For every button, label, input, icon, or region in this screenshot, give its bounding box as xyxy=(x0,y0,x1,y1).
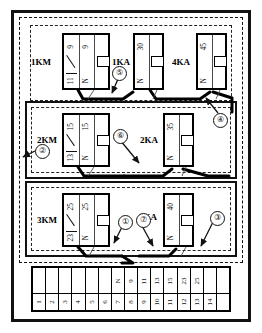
diagram-canvas: 9 9 11 N 1KM 30 N 1KA 45 N 4KA 15 15 13 … xyxy=(0,0,262,333)
terminal-label: N xyxy=(82,149,90,167)
terminal-index-number-text: 7 xyxy=(114,300,121,304)
terminal-wire-number-text: 15 xyxy=(167,277,174,284)
terminal-cell[interactable]: 98 xyxy=(125,268,138,310)
coil-icon xyxy=(97,135,110,146)
terminal-index-number: 5 xyxy=(86,294,98,310)
terminal-wire-number: 9 xyxy=(125,268,137,294)
terminal-label: N xyxy=(82,72,90,90)
contact-terminal-bar-icon xyxy=(66,73,77,74)
terminal-wire-number xyxy=(33,268,45,294)
callout-3: ③ xyxy=(210,211,225,226)
device-label-3KM: 3KM xyxy=(37,216,57,225)
terminal-label: 9 xyxy=(67,38,75,56)
device-divider xyxy=(149,35,150,88)
device-divider xyxy=(94,115,95,165)
device-divider xyxy=(212,35,213,88)
terminal-label: N xyxy=(167,149,175,167)
terminal-index-number-text: 3 xyxy=(62,300,69,304)
terminal-cell[interactable]: 1 xyxy=(33,268,46,310)
terminal-strip[interactable]: 123456N798119131015112312251314 xyxy=(31,266,231,312)
terminal-index-number: 1 xyxy=(33,294,45,310)
device-label-1KM: 1KM xyxy=(31,58,51,67)
terminal-wire-number xyxy=(99,268,111,294)
terminal-cell[interactable]: 1511 xyxy=(164,268,177,310)
terminal-label: N xyxy=(200,72,208,90)
device-divider xyxy=(94,195,95,245)
terminal-wire-number xyxy=(59,268,71,294)
device-1KM[interactable]: 9 9 11 N xyxy=(62,33,110,90)
terminal-index-number: 4 xyxy=(72,294,84,310)
callout-4: ④ xyxy=(213,113,228,128)
terminal-index-number-text: 6 xyxy=(101,300,108,304)
contact-terminal-bar-icon xyxy=(66,231,77,232)
coil-icon xyxy=(214,56,227,67)
terminal-label: N xyxy=(82,229,90,247)
device-2KM[interactable]: 15 15 13 N xyxy=(62,113,110,167)
terminal-label: N xyxy=(137,72,145,90)
device-label-2KA: 2KA xyxy=(140,136,158,145)
terminal-cell[interactable] xyxy=(217,268,229,310)
terminal-wire-number-text: 9 xyxy=(128,279,135,283)
terminal-wire-number-text: 13 xyxy=(154,277,161,284)
coil-icon xyxy=(181,215,194,226)
terminal-cell[interactable]: 119 xyxy=(138,268,151,310)
terminal-wire-number: 23 xyxy=(178,268,190,294)
terminal-cell[interactable]: 6 xyxy=(99,268,112,310)
terminal-wire-number-text: 23 xyxy=(180,277,187,284)
terminal-index-number: 9 xyxy=(138,294,150,310)
terminal-index-number-text: 4 xyxy=(75,300,82,304)
callout-6: ⑥ xyxy=(113,129,128,144)
terminal-index-number-text: 12 xyxy=(180,299,187,306)
terminal-label: 11 xyxy=(67,72,75,90)
terminal-label: 15 xyxy=(67,118,75,136)
terminal-cell[interactable]: 2 xyxy=(46,268,59,310)
terminal-index-number: 12 xyxy=(178,294,190,310)
terminal-index-number: 10 xyxy=(151,294,163,310)
terminal-label: 9 xyxy=(82,38,90,56)
terminal-label: 45 xyxy=(200,38,208,56)
terminal-label: N xyxy=(167,229,175,247)
device-4KA[interactable]: 45 N xyxy=(196,33,227,90)
terminal-wire-number xyxy=(46,268,58,294)
terminal-index-number: 7 xyxy=(112,294,124,310)
terminal-index-number xyxy=(217,294,229,310)
terminal-cell[interactable]: 2513 xyxy=(191,268,204,310)
terminal-index-number: 2 xyxy=(46,294,58,310)
device-3KM[interactable]: 25 25 23 N xyxy=(62,193,110,247)
coil-icon xyxy=(97,56,110,67)
device-divider xyxy=(79,195,80,245)
terminal-cell[interactable]: 2312 xyxy=(178,268,191,310)
callout-7: ⑦ xyxy=(136,213,151,228)
device-3KA[interactable]: 40 N xyxy=(163,193,194,247)
terminal-wire-number-text: 11 xyxy=(141,277,148,284)
contact-blade-icon xyxy=(66,214,75,226)
terminal-cell[interactable]: N7 xyxy=(112,268,125,310)
coil-icon xyxy=(181,135,194,146)
terminal-index-number-text: 2 xyxy=(49,300,56,304)
device-divider xyxy=(94,35,95,88)
device-2KA[interactable]: 35 N xyxy=(163,113,194,167)
device-divider xyxy=(79,35,80,88)
terminal-cell[interactable]: 1310 xyxy=(151,268,164,310)
terminal-wire-number xyxy=(72,268,84,294)
terminal-wire-number xyxy=(204,268,216,294)
device-label-4KA: 4KA xyxy=(172,58,190,67)
terminal-wire-number: 13 xyxy=(151,268,163,294)
terminal-label: 25 xyxy=(82,198,90,216)
terminal-index-number-text: 10 xyxy=(154,299,161,306)
contact-blade-icon xyxy=(66,55,75,68)
terminal-cell[interactable]: 3 xyxy=(59,268,72,310)
device-divider xyxy=(179,195,180,245)
terminal-index-number-text: 11 xyxy=(167,299,174,306)
terminal-wire-number-text: 25 xyxy=(193,277,200,284)
callout-5: ⑤ xyxy=(112,66,127,81)
terminal-cell[interactable]: 4 xyxy=(72,268,85,310)
terminal-cell[interactable]: 14 xyxy=(204,268,217,310)
contact-blade-icon xyxy=(66,134,75,146)
terminal-index-number: 6 xyxy=(99,294,111,310)
device-1KA[interactable]: 30 N xyxy=(133,33,164,90)
terminal-cell[interactable]: 5 xyxy=(86,268,99,310)
device-divider xyxy=(79,115,80,165)
terminal-wire-number: 25 xyxy=(191,268,203,294)
terminal-label: 30 xyxy=(137,38,145,56)
